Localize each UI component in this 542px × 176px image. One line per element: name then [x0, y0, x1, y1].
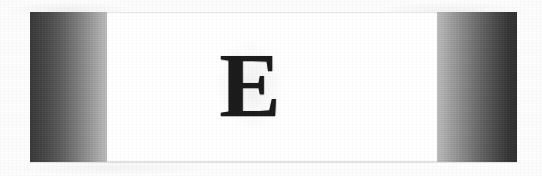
right-gradient-block [437, 12, 517, 162]
right-block-grain-overlay [437, 12, 517, 162]
scan-smudge-bottom-left [10, 161, 210, 175]
scanned-page: E [0, 0, 542, 176]
drop-cap-banner: E [30, 12, 517, 162]
left-block-grain-overlay [30, 12, 107, 162]
drop-cap-letter: E [219, 39, 280, 131]
left-gradient-block [30, 12, 107, 162]
center-white-panel: E [107, 12, 437, 162]
